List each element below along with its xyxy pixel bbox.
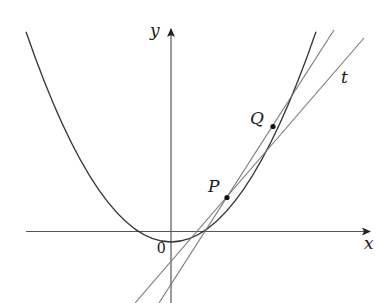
secant-line (159, 30, 334, 303)
y-axis-label: y (149, 20, 160, 40)
tangent-line (135, 38, 364, 303)
tangent-label: t (341, 67, 348, 87)
point-q-label: Q (250, 108, 264, 128)
point-q (270, 124, 275, 129)
point-p (224, 195, 229, 200)
x-axis-label: x (364, 233, 374, 253)
point-p-label: P (207, 176, 220, 196)
diagram-canvas: y x 0 P Q t (0, 0, 388, 303)
origin-label: 0 (157, 238, 166, 257)
